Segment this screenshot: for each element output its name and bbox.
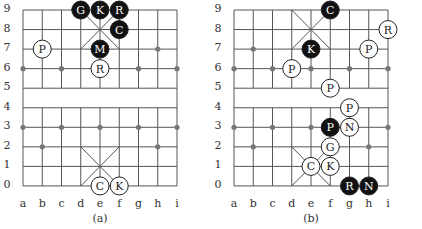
file-label: g bbox=[344, 197, 356, 210]
rank-label: 8 bbox=[212, 22, 224, 35]
svg-text:P: P bbox=[365, 43, 373, 56]
svg-text:R: R bbox=[345, 180, 354, 193]
file-label: i bbox=[382, 197, 394, 210]
piece-white-r[interactable]: R bbox=[91, 60, 109, 78]
svg-text:R: R bbox=[96, 63, 105, 76]
piece-white-k[interactable]: K bbox=[110, 177, 128, 195]
position-marker bbox=[136, 66, 141, 71]
position-marker bbox=[59, 66, 64, 71]
piece-black-k[interactable]: K bbox=[302, 40, 320, 58]
position-marker bbox=[308, 66, 313, 71]
rank-label: 6 bbox=[212, 61, 224, 74]
position-marker bbox=[366, 144, 371, 149]
file-label: c bbox=[267, 197, 279, 210]
rank-label: 5 bbox=[1, 80, 13, 93]
file-label: e bbox=[305, 197, 317, 210]
piece-white-p[interactable]: P bbox=[360, 40, 378, 58]
svg-text:G: G bbox=[326, 141, 335, 154]
piece-white-p[interactable]: P bbox=[321, 79, 339, 97]
rank-label: 2 bbox=[212, 139, 224, 152]
svg-text:C: C bbox=[307, 160, 315, 173]
svg-text:N: N bbox=[345, 121, 355, 134]
piece-black-m[interactable]: M bbox=[91, 40, 109, 58]
file-label: h bbox=[363, 197, 375, 210]
position-marker bbox=[20, 66, 25, 71]
piece-black-r[interactable]: R bbox=[341, 177, 359, 195]
position-marker bbox=[308, 125, 313, 130]
piece-white-r[interactable]: R bbox=[379, 21, 397, 39]
svg-text:K: K bbox=[96, 4, 105, 17]
position-marker bbox=[251, 47, 256, 52]
position-marker bbox=[136, 125, 141, 130]
position-marker bbox=[270, 125, 275, 130]
svg-text:C: C bbox=[96, 180, 104, 193]
piece-black-r[interactable]: R bbox=[110, 1, 128, 19]
position-marker bbox=[155, 144, 160, 149]
piece-white-c[interactable]: C bbox=[302, 157, 320, 175]
rank-label: 1 bbox=[1, 158, 13, 171]
position-marker bbox=[174, 125, 179, 130]
piece-white-c[interactable]: C bbox=[91, 177, 109, 195]
piece-black-n[interactable]: N bbox=[360, 177, 378, 195]
svg-text:P: P bbox=[346, 102, 354, 115]
file-label: a bbox=[228, 197, 240, 210]
rank-label: 0 bbox=[212, 178, 224, 191]
svg-text:R: R bbox=[115, 4, 124, 17]
rank-label: 4 bbox=[1, 100, 13, 113]
piece-black-g[interactable]: G bbox=[72, 1, 90, 19]
rank-label: 3 bbox=[212, 119, 224, 132]
position-marker bbox=[40, 144, 45, 149]
svg-text:P: P bbox=[327, 121, 335, 134]
rank-label: 6 bbox=[1, 61, 13, 74]
board-grid: CRKPPPPPNGCKRN bbox=[211, 0, 422, 229]
piece-black-k[interactable]: K bbox=[91, 1, 109, 19]
position-marker bbox=[59, 125, 64, 130]
rank-label: 9 bbox=[212, 2, 224, 15]
file-label: d bbox=[286, 197, 298, 210]
rank-label: 4 bbox=[212, 100, 224, 113]
piece-white-p[interactable]: P bbox=[33, 40, 51, 58]
board-caption: (b) bbox=[291, 212, 331, 225]
piece-black-c[interactable]: C bbox=[110, 21, 128, 39]
svg-text:C: C bbox=[115, 24, 123, 37]
position-marker bbox=[231, 66, 236, 71]
file-label: f bbox=[324, 197, 336, 210]
file-label: b bbox=[247, 197, 259, 210]
rank-label: 1 bbox=[212, 158, 224, 171]
file-label: a bbox=[17, 197, 29, 210]
position-marker bbox=[347, 66, 352, 71]
piece-black-p[interactable]: P bbox=[321, 118, 339, 136]
piece-white-p[interactable]: P bbox=[283, 60, 301, 78]
rank-label: 7 bbox=[1, 41, 13, 54]
piece-white-p[interactable]: P bbox=[341, 99, 359, 117]
piece-white-g[interactable]: G bbox=[321, 138, 339, 156]
svg-text:K: K bbox=[307, 43, 316, 56]
piece-white-k[interactable]: K bbox=[321, 157, 339, 175]
position-marker bbox=[174, 66, 179, 71]
svg-text:N: N bbox=[364, 180, 374, 193]
svg-text:K: K bbox=[326, 160, 335, 173]
xiangqi-board-b: CRKPPPPPNGCKRN9876543210abcdefghi(b) bbox=[211, 0, 422, 229]
file-label: d bbox=[75, 197, 87, 210]
piece-white-n[interactable]: N bbox=[341, 118, 359, 136]
rank-label: 7 bbox=[212, 41, 224, 54]
svg-text:R: R bbox=[384, 24, 393, 37]
position-marker bbox=[97, 125, 102, 130]
rank-label: 3 bbox=[1, 119, 13, 132]
file-label: i bbox=[171, 197, 183, 210]
rank-label: 8 bbox=[1, 22, 13, 35]
xiangqi-board-a: GKRCMPRCK9876543210abcdefghi(a) bbox=[0, 0, 211, 229]
file-label: e bbox=[94, 197, 106, 210]
svg-text:K: K bbox=[115, 180, 124, 193]
svg-text:M: M bbox=[94, 43, 105, 56]
position-marker bbox=[251, 144, 256, 149]
file-label: g bbox=[133, 197, 145, 210]
rank-label: 5 bbox=[212, 80, 224, 93]
svg-text:P: P bbox=[39, 43, 47, 56]
svg-text:G: G bbox=[76, 4, 85, 17]
position-marker bbox=[155, 47, 160, 52]
board-grid: GKRCMPRCK bbox=[0, 0, 211, 229]
piece-black-c[interactable]: C bbox=[321, 1, 339, 19]
svg-text:C: C bbox=[326, 4, 334, 17]
file-label: f bbox=[113, 197, 125, 210]
